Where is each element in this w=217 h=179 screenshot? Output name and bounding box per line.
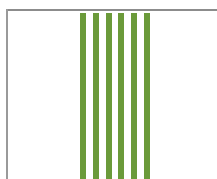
bar-4: [118, 13, 124, 179]
bar-2: [93, 13, 99, 179]
bar-3: [106, 13, 112, 179]
bar-5: [131, 13, 137, 179]
bar-6: [144, 13, 150, 179]
left-axis-line: [6, 9, 8, 179]
bar-1: [80, 13, 86, 179]
bar-chart: [0, 0, 217, 179]
top-axis-line: [6, 9, 217, 11]
